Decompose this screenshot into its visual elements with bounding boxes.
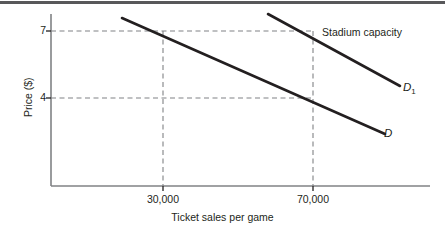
demand-curve-d-label: D (384, 128, 392, 140)
y-tick-label-7: 7 (34, 25, 46, 36)
stadium-capacity-annotation: Stadium capacity (322, 27, 402, 38)
demand-curve-d1-label: D1 (403, 82, 416, 96)
y-axis-title: Price ($) (23, 57, 34, 137)
demand-curve-d-label-text: D (384, 127, 392, 139)
demand-curve-d1-label-subscript: 1 (411, 87, 415, 96)
y-tick-label-4: 4 (34, 92, 46, 103)
x-tick-label-30000: 30,000 (133, 194, 193, 205)
demand-curve-d1 (268, 14, 400, 86)
x-tick-label-70000: 70,000 (283, 194, 343, 205)
chart-figure: 7 4 30,000 70,000 Price ($) Ticket sales… (0, 0, 445, 232)
x-axis-title: Ticket sales per game (0, 212, 445, 223)
